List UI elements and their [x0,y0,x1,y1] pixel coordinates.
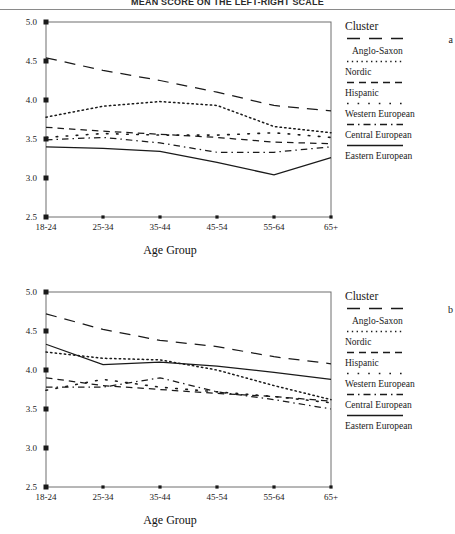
y-axis-tick: 4.0 [26,365,38,375]
legend-label-eastern-european-a: Eastern European [345,150,455,162]
legend-swatch-nordic-b [345,327,407,336]
figure-root: MEAN SCORE ON THE LEFT-RIGHT SCALE 2.53.… [0,0,455,534]
y-axis-tick: 4.0 [26,95,38,105]
series-line-central-european [46,378,331,409]
legend-title-b: Cluster [345,290,455,302]
legend-swatch-western-european-a [345,99,407,108]
x-axis-tick: 18-24 [36,492,57,502]
x-axis-tick: 18-24 [36,222,57,232]
series-line-western-european [46,133,331,138]
x-axis-tick: 25-34 [93,492,114,502]
chart-panel-b: 2.53.03.54.04.55.018-2425-3435-4445-5455… [0,282,340,532]
legend-label-hispanic-a: Hispanic [345,87,455,99]
x-axis-tick: 35-44 [150,222,171,232]
legend-label-central-european-a: Central European [345,129,455,141]
figure-title: MEAN SCORE ON THE LEFT-RIGHT SCALE [0,0,455,7]
chart-panel-a: 2.53.03.54.04.55.018-2425-3435-4445-5455… [0,12,340,262]
title-rule [0,9,455,10]
y-axis-tick: 4.5 [26,326,38,336]
figure-title-band: MEAN SCORE ON THE LEFT-RIGHT SCALE [0,0,455,9]
legend-swatch-eastern-european-b [345,411,407,420]
legend-swatch-anglo-saxon-a [345,34,407,43]
legend-label-western-european-a: Western European [345,108,455,120]
x-axis-tick: 65+ [324,222,338,232]
y-axis-tick: 4.5 [26,56,38,66]
legend-label-central-european-b: Central European [345,399,455,411]
y-axis-tick: 5.0 [26,17,38,27]
y-axis-tick: 2.5 [26,212,38,222]
x-axis-tick: 35-44 [150,492,171,502]
legend-swatch-central-european-a [345,120,407,129]
y-axis-tick: 5.0 [26,287,38,297]
legend-title-a: Cluster [345,20,455,32]
legend-label-eastern-european-b: Eastern European [345,420,455,432]
legend-swatch-western-european-b [345,369,407,378]
x-axis-tick: 25-34 [93,222,114,232]
y-axis-tick: 2.5 [26,482,38,492]
legend-label-anglo-saxon-b: Anglo-Saxon [345,315,455,327]
x-axis-tick: 45-54 [207,492,228,502]
legend-label-nordic-a: Nordic [345,66,455,78]
y-axis-tick: 3.5 [26,404,38,414]
legend-swatch-anglo-saxon-b [345,304,407,313]
series-line-central-european [46,137,331,152]
panel-letter-a: a [449,34,453,45]
legend-swatch-eastern-european-a [345,141,407,150]
legend-panel-a: Cluster a Anglo-Saxon Nordic Hispanic We… [345,20,455,162]
panel-letter-b: b [448,304,453,315]
x-axis-tick: 65+ [324,492,338,502]
legend-swatch-hispanic-a [345,78,407,87]
legend-label-western-european-b: Western European [345,378,455,390]
y-axis-tick: 3.5 [26,134,38,144]
x-axis-tick: 55-64 [264,492,285,502]
series-line-eastern-european [46,344,331,379]
legend-label-hispanic-b: Hispanic [345,357,455,369]
legend-swatch-hispanic-b [345,348,407,357]
x-axis-label-b: Age Group [20,513,320,528]
legend-label-nordic-b: Nordic [345,336,455,348]
x-axis-tick: 45-54 [207,222,228,232]
y-axis-tick: 3.0 [26,173,38,183]
y-axis-tick: 3.0 [26,443,38,453]
x-axis-tick: 55-64 [264,222,285,232]
legend-swatch-nordic-a [345,57,407,66]
legend-swatch-central-european-b [345,390,407,399]
legend-label-anglo-saxon-a: Anglo-Saxon [345,45,455,57]
x-axis-label-a: Age Group [20,243,320,258]
legend-panel-b: Cluster b Anglo-Saxon Nordic Hispanic We… [345,290,455,432]
